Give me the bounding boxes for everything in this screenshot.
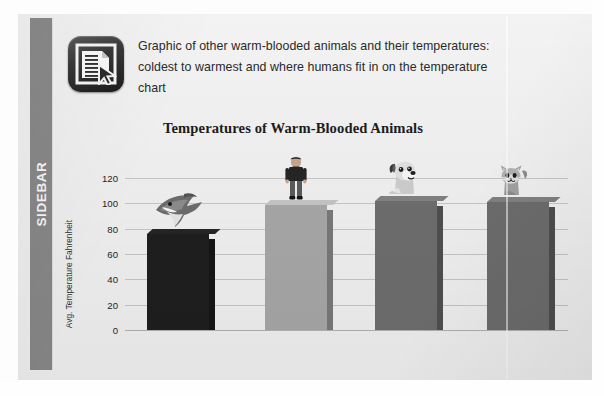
gridline bbox=[125, 178, 568, 179]
shark-icon bbox=[150, 190, 206, 232]
bar-side-face bbox=[209, 239, 215, 330]
bar-front-face bbox=[487, 202, 549, 330]
presentation-slide: SIDEBAR bbox=[8, 8, 596, 386]
bar-group bbox=[265, 205, 327, 330]
document-cursor-icon bbox=[68, 36, 124, 92]
sidebar[interactable]: SIDEBAR bbox=[30, 18, 52, 370]
bar-top-face bbox=[147, 229, 221, 234]
bar-group bbox=[147, 234, 209, 330]
bar-top-face bbox=[375, 196, 449, 201]
bar-side-face bbox=[437, 206, 443, 330]
sidebar-label: SIDEBAR bbox=[34, 162, 49, 227]
y-axis-tick-label: 0 bbox=[113, 325, 118, 336]
page-margin-right bbox=[592, 0, 604, 396]
page-margin-top bbox=[0, 0, 604, 14]
bar-top-face bbox=[265, 200, 339, 205]
y-axis-tick-label: 120 bbox=[102, 173, 118, 184]
bar[interactable] bbox=[147, 234, 209, 330]
gridline bbox=[125, 330, 568, 331]
bar-side-face bbox=[327, 210, 333, 330]
page-margin-left bbox=[0, 0, 18, 396]
page-margin-bottom bbox=[0, 380, 604, 396]
screenshot-root: SIDEBAR bbox=[0, 0, 604, 396]
scan-seam bbox=[506, 16, 508, 386]
y-axis-tick-label: 20 bbox=[107, 299, 118, 310]
bar[interactable] bbox=[375, 201, 437, 330]
chart-title: Temperatures of Warm-Blooded Animals bbox=[58, 120, 528, 137]
bar-group bbox=[487, 202, 549, 330]
bar-chart: Temperatures of Warm-Blooded Animals Avg… bbox=[58, 120, 578, 350]
y-axis-tick-label: 80 bbox=[107, 223, 118, 234]
human-icon bbox=[284, 156, 308, 204]
header: Graphic of other warm-blooded animals an… bbox=[68, 36, 498, 99]
plot-area: 020406080100120 bbox=[125, 178, 568, 330]
y-axis-tick-label: 40 bbox=[107, 274, 118, 285]
y-axis-tick-label: 60 bbox=[107, 249, 118, 260]
bar-side-face bbox=[549, 207, 555, 330]
bar-group bbox=[375, 201, 437, 330]
bar-front-face bbox=[375, 201, 437, 330]
dog-icon bbox=[384, 160, 424, 200]
y-axis-tick-label: 100 bbox=[102, 198, 118, 209]
bar-top-face bbox=[487, 197, 561, 202]
y-axis-title: Avg. Temperature Fahrenheit bbox=[64, 220, 74, 328]
caption-text: Graphic of other warm-blooded animals an… bbox=[138, 36, 498, 99]
bar-front-face bbox=[265, 205, 327, 330]
bar[interactable] bbox=[265, 205, 327, 330]
bar-front-face bbox=[147, 234, 209, 330]
bar[interactable] bbox=[487, 202, 549, 330]
cat-icon bbox=[494, 165, 530, 201]
